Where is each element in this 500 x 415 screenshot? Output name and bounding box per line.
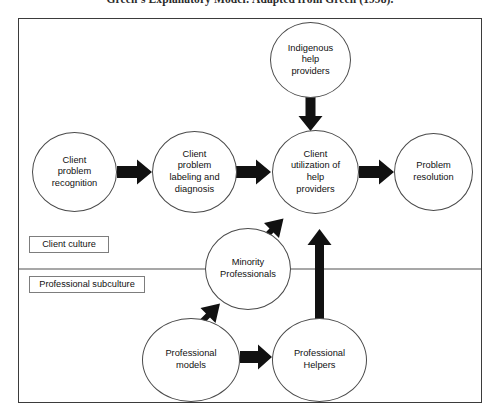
node-minority-professionals[interactable]: Minority Professionals xyxy=(205,228,291,310)
node-label: Client utilization of help providers xyxy=(286,149,345,195)
node-label: Client problem recognition xyxy=(47,155,102,190)
figure-canvas: Green’s Explanatory Model: Adapted from … xyxy=(0,0,500,415)
node-label: Minority Professionals xyxy=(215,257,281,280)
node-client-problem-recognition[interactable]: Client problem recognition xyxy=(32,132,117,212)
node-client-utilization[interactable]: Client utilization of help providers xyxy=(272,130,359,214)
node-problem-resolution[interactable]: Problem resolution xyxy=(394,133,473,211)
label-box-text: Professional subculture xyxy=(34,279,140,290)
node-label: Professional models xyxy=(160,348,221,371)
label-box-client-culture[interactable]: Client culture xyxy=(29,236,109,253)
node-label: Client problem labeling and diagnosis xyxy=(164,149,224,195)
node-label: Indigenous help providers xyxy=(283,43,339,78)
label-box-text: Client culture xyxy=(37,239,101,250)
node-professional-helpers[interactable]: Professional Helpers xyxy=(272,318,367,402)
node-client-problem-labeling[interactable]: Client problem labeling and diagnosis xyxy=(152,131,237,213)
node-professional-models[interactable]: Professional models xyxy=(142,318,240,402)
node-label: Problem resolution xyxy=(408,160,458,183)
figure-caption: Green’s Explanatory Model: Adapted from … xyxy=(0,0,500,5)
label-box-professional-subculture[interactable]: Professional subculture xyxy=(29,276,145,293)
node-indigenous-help-providers[interactable]: Indigenous help providers xyxy=(270,22,351,98)
figure-frame xyxy=(18,18,482,403)
node-label: Professional Helpers xyxy=(289,348,350,371)
